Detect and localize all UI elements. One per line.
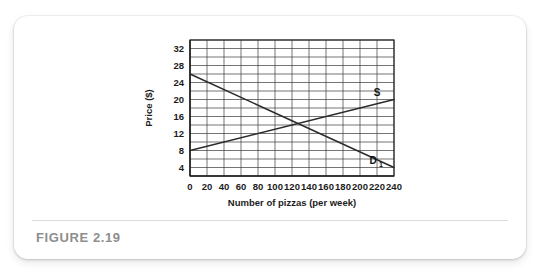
demand-curve-label-subscript: 1: [379, 161, 383, 168]
y-tick-label: 4: [179, 162, 185, 173]
x-tick-label: 100: [267, 181, 283, 192]
demand-curve-label: D: [369, 155, 376, 166]
x-tick-label: 200: [352, 181, 368, 192]
chart-area: S D 1 4 8 12 16 20 24 28 32: [14, 16, 526, 212]
y-tick-label: 32: [173, 43, 184, 54]
y-tick-label: 16: [173, 111, 184, 122]
figure-card: S D 1 4 8 12 16 20 24 28 32: [14, 16, 526, 259]
x-tick-label: 180: [335, 181, 351, 192]
y-tick-label: 28: [173, 60, 184, 71]
y-tick-label: 8: [179, 145, 184, 156]
x-tick-label: 160: [318, 181, 334, 192]
x-tick-label: 0: [187, 181, 192, 192]
x-tick-label: 60: [236, 181, 247, 192]
demand-curve-label-group: D 1: [369, 155, 383, 168]
x-tick-label: 20: [202, 181, 213, 192]
figure-caption: FIGURE 2.19: [36, 230, 121, 245]
x-tick-label: 220: [369, 181, 385, 192]
y-tick-label: 12: [173, 128, 184, 139]
x-tick-label: 240: [386, 181, 402, 192]
supply-curve-label-group: S: [374, 87, 381, 98]
y-axis-title: Price ($): [143, 89, 154, 127]
x-tick-label: 40: [219, 181, 230, 192]
y-tick-label: 20: [173, 94, 184, 105]
y-axis-tick-labels: 4 8 12 16 20 24 28 32: [173, 43, 184, 173]
page-background: S D 1 4 8 12 16 20 24 28 32: [0, 0, 544, 275]
x-tick-label: 140: [301, 181, 317, 192]
supply-demand-chart: S D 1 4 8 12 16 20 24 28 32: [128, 22, 418, 212]
y-tick-label: 24: [173, 77, 184, 88]
x-tick-label: 120: [284, 181, 300, 192]
supply-curve-label: S: [374, 87, 381, 98]
figure-divider: [32, 220, 508, 221]
x-axis-tick-labels: 0 20 40 60 80 100 120 140 160 180 200 22…: [187, 181, 402, 192]
x-axis-title: Number of pizzas (per week): [228, 197, 356, 208]
x-tick-label: 80: [253, 181, 264, 192]
